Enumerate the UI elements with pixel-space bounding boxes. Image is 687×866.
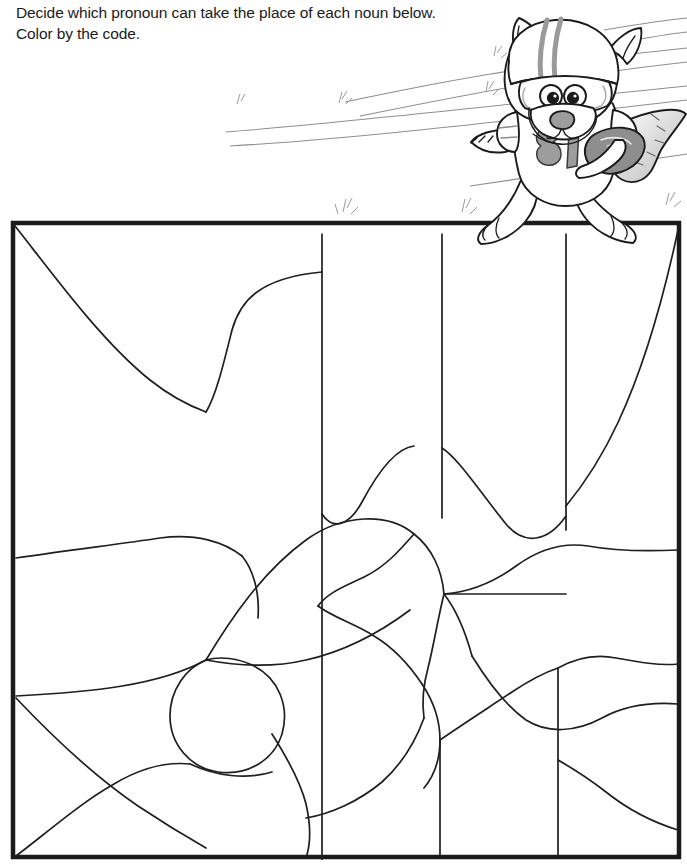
- left-sleeve: [497, 112, 519, 152]
- color-by-code-puzzle: [10, 220, 682, 860]
- worksheet-page: Decide which pronoun can take the place …: [0, 0, 687, 866]
- nose: [550, 111, 574, 129]
- helmet: [508, 20, 618, 84]
- raccoon-football-player-mascot: [455, 10, 687, 245]
